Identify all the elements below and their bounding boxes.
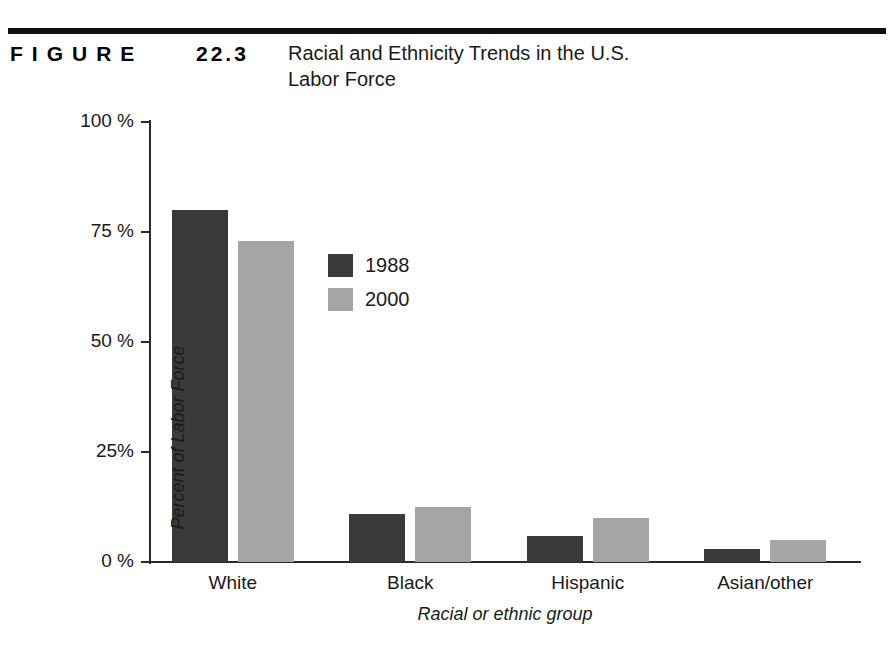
x-axis-title: Racial or ethnic group bbox=[150, 604, 860, 625]
x-axis-tick-label: Black bbox=[320, 572, 500, 594]
bar-black-2000 bbox=[415, 507, 471, 562]
legend-swatch-icon bbox=[328, 288, 353, 311]
y-axis-tick-label-wrap: 75 % bbox=[44, 220, 134, 242]
bar-hispanic-2000 bbox=[593, 518, 649, 562]
bar-asian-other-1988 bbox=[704, 549, 760, 562]
y-axis-tick-label-wrap: 50 % bbox=[44, 330, 134, 352]
y-axis-tick-label-wrap: 25% bbox=[44, 440, 134, 462]
y-axis-tick-label-wrap: 100 % bbox=[44, 110, 134, 132]
legend-swatch-icon bbox=[328, 254, 353, 277]
legend-label: 2000 bbox=[365, 289, 410, 309]
y-axis-tick bbox=[141, 121, 150, 123]
y-axis-tick bbox=[141, 341, 150, 343]
y-axis-tick-label: 0 % bbox=[48, 550, 134, 572]
y-axis-tick bbox=[141, 231, 150, 233]
x-axis-tick-label: Asian/other bbox=[675, 572, 855, 594]
y-axis-tick-label: 100 % bbox=[48, 110, 134, 132]
bar-black-1988 bbox=[349, 514, 405, 562]
legend-label: 1988 bbox=[365, 255, 410, 275]
bar-chart: 0 %25%50 %75 %100 % WhiteBlackHispanicAs… bbox=[0, 0, 895, 652]
y-axis-title: Percent of Labor Force bbox=[168, 288, 189, 588]
legend-item: 1988 bbox=[328, 250, 458, 280]
y-axis-tick-label: 25% bbox=[48, 440, 134, 462]
y-axis-tick bbox=[141, 451, 150, 453]
bar-hispanic-1988 bbox=[527, 536, 583, 562]
bar-white-2000 bbox=[238, 241, 294, 562]
bar-asian-other-2000 bbox=[770, 540, 826, 562]
y-axis-tick-label: 50 % bbox=[48, 330, 134, 352]
legend-item: 2000 bbox=[328, 284, 458, 314]
x-axis-tick-label: Hispanic bbox=[498, 572, 678, 594]
y-axis-tick bbox=[141, 561, 150, 563]
plot-area: Percent of Labor Force 19882000 bbox=[150, 122, 860, 562]
chart-legend: 19882000 bbox=[328, 250, 458, 318]
y-axis-tick-label: 75 % bbox=[48, 220, 134, 242]
y-axis-tick-label-wrap: 0 % bbox=[44, 550, 134, 572]
